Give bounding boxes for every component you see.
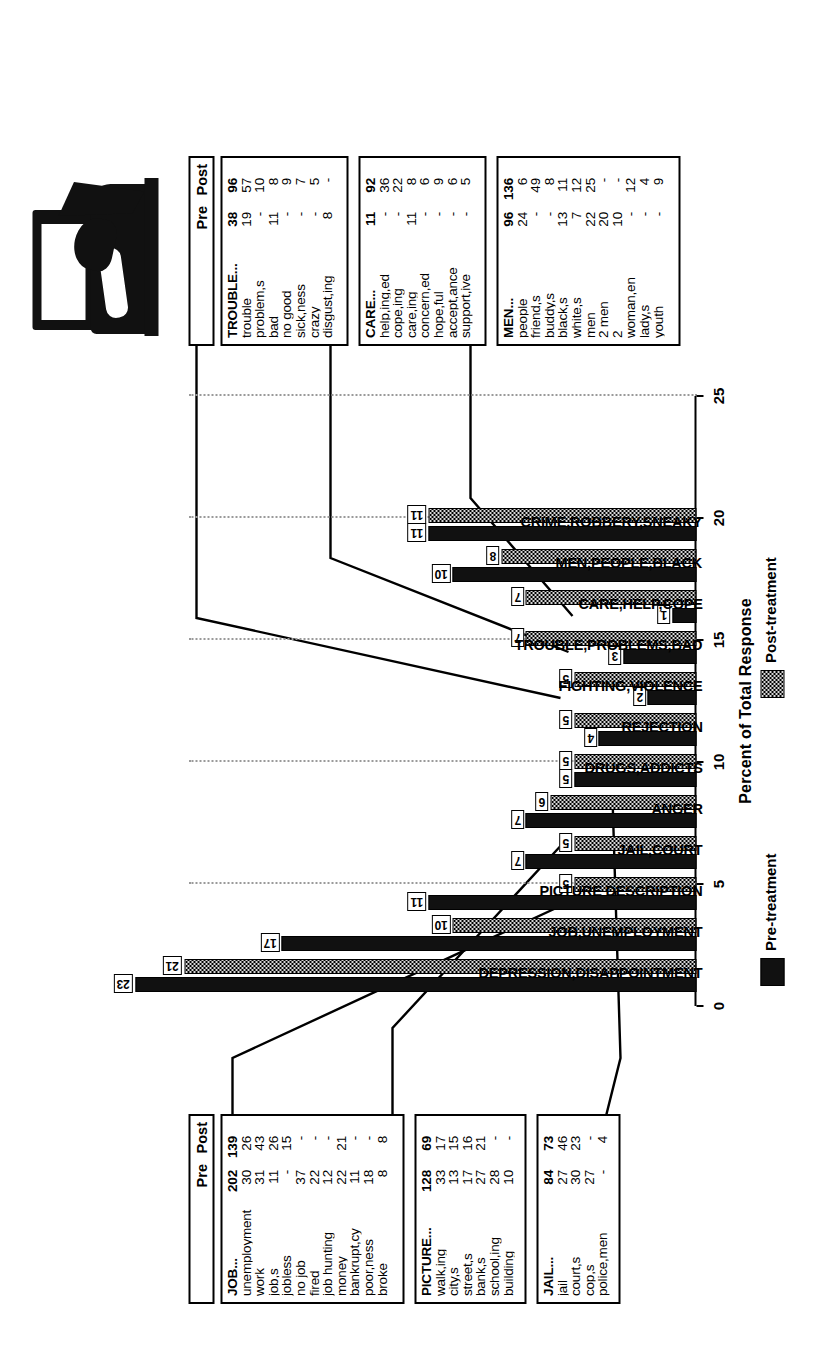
- category-label: MEN,PEOPLE,BLACK: [555, 555, 702, 571]
- category-label: CRIME,ROBBERY,SNEAKY: [520, 514, 702, 530]
- figure-stage: Pre Post TROUBLE...3896trouble1957proble…: [0, 0, 823, 1358]
- legend-label-post: Post-treatment: [762, 557, 779, 663]
- category-label: JOB,UNEMPLOYMENT: [548, 924, 702, 940]
- category-label: FIGHTING,VIOLENCE: [558, 678, 702, 694]
- legend-label-pre: Pre-treatment: [762, 853, 779, 951]
- category-label: TROUBLE,PROBLEMS,BAD: [514, 637, 702, 653]
- category-label: PICTURE DESCRIPTION: [539, 883, 702, 899]
- category-label: ANGER: [651, 801, 702, 817]
- legend-post: Post-treatment: [760, 557, 784, 698]
- category-label: REJECTION: [621, 719, 702, 735]
- category-label: JAIL,COURT: [617, 842, 702, 858]
- legend-pre: Pre-treatment: [760, 853, 784, 986]
- legend-swatch-post: [760, 670, 784, 698]
- legend-swatch-pre: [760, 958, 784, 986]
- category-label: DEPRESSION,DISAPPOINTMENT: [478, 965, 702, 981]
- category-label: DRUGS,ADDICTS: [584, 760, 702, 776]
- category-labels: DEPRESSION,DISAPPOINTMENTJOB,UNEMPLOYMEN…: [0, 0, 823, 1358]
- category-label: CARE,HELP,COPE: [578, 596, 702, 612]
